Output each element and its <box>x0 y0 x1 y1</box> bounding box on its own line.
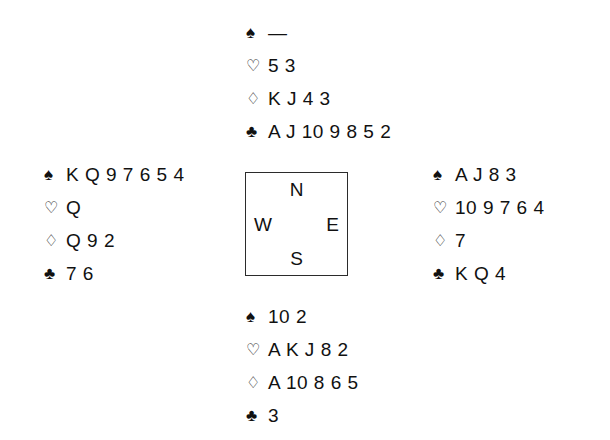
hand-west-clubs: 7 6 <box>66 264 94 283</box>
compass-box: N W E S <box>245 172 348 276</box>
heart-icon: ♡ <box>44 200 66 216</box>
hand-east: ♠ A J 8 3 ♡ 10 9 7 6 4 ♢ 7 ♣ K Q 4 <box>433 158 545 290</box>
spade-icon: ♠ <box>433 166 455 183</box>
club-icon: ♣ <box>44 265 66 282</box>
spade-icon: ♠ <box>246 308 268 325</box>
hand-north-diamonds-row: ♢ K J 4 3 <box>246 82 391 115</box>
hand-south-clubs-row: ♣ 3 <box>246 399 359 432</box>
hand-north-diamonds: K J 4 3 <box>268 89 331 108</box>
hand-south-spades-row: ♠ 10 2 <box>246 300 359 333</box>
hand-west-diamonds-row: ♢ Q 9 2 <box>44 224 184 257</box>
hand-east-hearts-row: ♡ 10 9 7 6 4 <box>433 191 545 224</box>
compass-label-south: S <box>290 249 303 268</box>
hand-west-hearts-row: ♡ Q <box>44 191 184 224</box>
hand-east-clubs-row: ♣ K Q 4 <box>433 257 545 290</box>
hand-west-spades: K Q 9 7 6 5 4 <box>66 165 184 184</box>
diamond-icon: ♢ <box>433 233 455 249</box>
heart-icon: ♡ <box>433 200 455 216</box>
hand-north-spades: — <box>268 23 288 42</box>
club-icon: ♣ <box>246 123 268 140</box>
compass-label-west: W <box>254 215 272 234</box>
heart-icon: ♡ <box>246 342 268 358</box>
hand-north-clubs: A J 10 9 8 5 2 <box>268 122 391 141</box>
hand-east-spades: A J 8 3 <box>455 165 517 184</box>
heart-icon: ♡ <box>246 58 268 74</box>
hand-south-hearts-row: ♡ A K J 8 2 <box>246 333 359 366</box>
hand-east-clubs: K Q 4 <box>455 264 506 283</box>
compass-label-north: N <box>290 180 304 199</box>
hand-north-hearts: 5 3 <box>268 56 296 75</box>
hand-north-clubs-row: ♣ A J 10 9 8 5 2 <box>246 115 391 148</box>
bridge-deal-diagram: ♠ — ♡ 5 3 ♢ K J 4 3 ♣ A J 10 9 8 5 2 ♠ K… <box>0 0 610 440</box>
hand-east-diamonds: 7 <box>455 231 466 250</box>
hand-south-clubs: 3 <box>268 406 279 425</box>
hand-east-hearts: 10 9 7 6 4 <box>455 198 545 217</box>
hand-south-diamonds: A 10 8 6 5 <box>268 373 359 392</box>
diamond-icon: ♢ <box>44 233 66 249</box>
hand-south-spades: 10 2 <box>268 307 307 326</box>
club-icon: ♣ <box>433 265 455 282</box>
compass-label-east: E <box>326 215 339 234</box>
hand-west-clubs-row: ♣ 7 6 <box>44 257 184 290</box>
hand-west-spades-row: ♠ K Q 9 7 6 5 4 <box>44 158 184 191</box>
hand-east-spades-row: ♠ A J 8 3 <box>433 158 545 191</box>
hand-west: ♠ K Q 9 7 6 5 4 ♡ Q ♢ Q 9 2 ♣ 7 6 <box>44 158 184 290</box>
diamond-icon: ♢ <box>246 375 268 391</box>
hand-south-diamonds-row: ♢ A 10 8 6 5 <box>246 366 359 399</box>
hand-east-diamonds-row: ♢ 7 <box>433 224 545 257</box>
hand-north-hearts-row: ♡ 5 3 <box>246 49 391 82</box>
hand-south: ♠ 10 2 ♡ A K J 8 2 ♢ A 10 8 6 5 ♣ 3 <box>246 300 359 432</box>
hand-west-hearts: Q <box>66 198 81 217</box>
spade-icon: ♠ <box>44 166 66 183</box>
hand-north-spades-row: ♠ — <box>246 16 391 49</box>
diamond-icon: ♢ <box>246 91 268 107</box>
hand-west-diamonds: Q 9 2 <box>66 231 115 250</box>
hand-north: ♠ — ♡ 5 3 ♢ K J 4 3 ♣ A J 10 9 8 5 2 <box>246 16 391 148</box>
club-icon: ♣ <box>246 407 268 424</box>
hand-south-hearts: A K J 8 2 <box>268 340 349 359</box>
spade-icon: ♠ <box>246 24 268 41</box>
